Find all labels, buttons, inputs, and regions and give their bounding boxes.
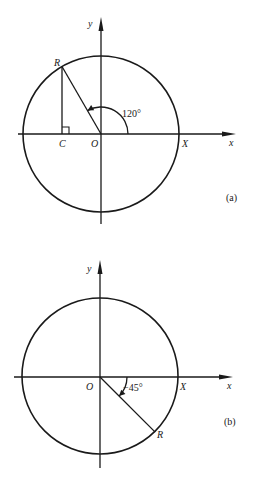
- figure-caption: (a): [226, 192, 237, 204]
- x-axis-label: x: [226, 380, 232, 391]
- figure-b: y x O X R −45° (b): [14, 260, 236, 468]
- x-axis-arrowhead: [222, 132, 236, 137]
- point-o-label: O: [91, 138, 98, 149]
- radius-or: [62, 66, 101, 134]
- figure-a: y x R C O X 120° (a): [18, 17, 237, 224]
- right-angle-marker: [62, 127, 69, 134]
- point-c-label: C: [59, 138, 66, 149]
- x-axis-arrowhead: [219, 375, 233, 380]
- point-o-label: O: [86, 381, 93, 392]
- angle-marks: [62, 66, 128, 134]
- y-axis-arrowhead: [99, 17, 104, 31]
- point-r-label: R: [156, 429, 163, 440]
- angle-label: −45°: [123, 382, 143, 393]
- y-axis-label: y: [86, 263, 92, 274]
- y-axis-arrowhead: [98, 260, 103, 274]
- point-r-label: R: [53, 57, 60, 68]
- y-axis-label: y: [87, 18, 93, 29]
- x-axis-label: x: [228, 137, 234, 148]
- unit-circle-figure: y x R C O X 120° (a) y x O X R −45° (b): [0, 0, 259, 485]
- point-x-label: X: [181, 138, 189, 149]
- angle-label: 120°: [122, 108, 141, 119]
- point-x-label: X: [179, 381, 187, 392]
- figure-caption: (b): [224, 416, 236, 428]
